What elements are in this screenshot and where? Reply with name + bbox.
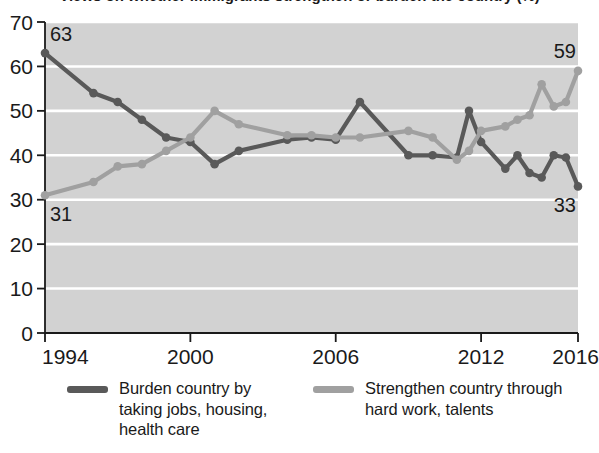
series-1-point-9 [307,131,316,140]
series-1-point-12 [404,127,413,136]
series-0-point-19 [525,169,534,178]
value-annotation-33: 33 [554,194,576,216]
legend-entry-burden: Burden country by taking jobs, housing, … [0,378,285,440]
x-tick-label-2000: 2000 [167,345,214,368]
series-0-point-0 [41,49,50,58]
series-0-point-17 [501,164,510,173]
legend-swatch-strengthen [313,386,354,393]
series-1-point-0 [41,191,50,200]
y-tick-label-50: 50 [10,99,33,122]
series-1-point-14 [453,155,462,164]
y-tick-label-20: 20 [10,233,33,256]
series-0-point-11 [356,98,365,107]
series-1-point-15 [465,147,474,156]
series-1-point-22 [562,98,571,107]
series-1-point-8 [283,131,292,140]
legend-label-strengthen: Strengthen country through hard work, ta… [365,378,575,419]
series-1-point-20 [537,80,546,89]
series-1-point-19 [525,111,534,120]
legend-swatch-burden [67,386,108,393]
series-0-point-22 [562,153,571,162]
value-annotation-31: 31 [50,203,72,225]
series-1-point-11 [356,133,365,142]
y-tick-label-40: 40 [10,144,33,167]
y-tick-label-60: 60 [10,55,33,78]
series-1-point-2 [113,162,122,171]
series-1-point-23 [574,67,583,76]
series-0-point-21 [549,151,558,160]
series-0-point-4 [162,133,171,142]
plot-area: 0102030405060701994200020062012201663315… [0,0,599,375]
chart-legend: Burden country by taking jobs, housing, … [0,378,599,453]
y-tick-label-10: 10 [10,277,33,300]
series-0-point-20 [537,173,546,182]
series-1-point-6 [210,107,219,116]
series-0-point-2 [113,98,122,107]
chart-container: Views on whether immigrants strengthen o… [0,0,599,453]
legend-label-burden: Burden country by taking jobs, housing, … [119,378,285,440]
series-1-point-16 [477,127,486,136]
series-0-point-23 [574,182,583,191]
series-0-point-7 [235,147,244,156]
series-0-point-1 [89,89,98,98]
series-1-point-1 [89,178,98,187]
series-1-point-17 [501,122,510,131]
series-0-point-6 [210,160,219,169]
series-1-point-7 [235,120,244,129]
series-1-point-21 [549,102,558,111]
value-annotation-63: 63 [50,23,72,45]
y-tick-label-70: 70 [10,11,33,34]
series-1-point-10 [331,133,340,142]
series-1-point-13 [428,133,437,142]
series-0-point-15 [465,107,474,116]
series-0-point-12 [404,151,413,160]
series-1-point-3 [138,160,147,169]
series-1-point-18 [513,115,522,124]
x-tick-label-1994: 1994 [42,345,89,368]
y-tick-label-0: 0 [21,322,33,345]
series-0-point-13 [428,151,437,160]
x-tick-label-2016: 2016 [552,345,599,368]
series-0-point-18 [513,151,522,160]
series-1-point-5 [186,133,195,142]
series-1-point-4 [162,147,171,156]
series-0-point-3 [138,115,147,124]
x-tick-label-2012: 2012 [458,345,505,368]
value-annotation-59: 59 [554,40,576,62]
legend-entry-strengthen: Strengthen country through hard work, ta… [285,378,575,419]
line-chart-svg: 0102030405060701994200020062012201663315… [0,0,599,375]
plot-background [45,22,578,333]
y-tick-label-30: 30 [10,188,33,211]
x-tick-label-2006: 2006 [312,345,359,368]
